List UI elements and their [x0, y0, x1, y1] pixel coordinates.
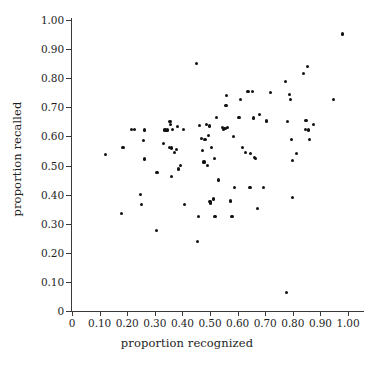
- data-point: [120, 212, 123, 215]
- x-tick-mark: [127, 311, 128, 316]
- y-tick-label: 0.90: [18, 44, 64, 55]
- data-point: [289, 98, 292, 101]
- data-point: [206, 164, 209, 167]
- x-tick-label: 1.00: [328, 318, 368, 329]
- data-point: [258, 113, 261, 116]
- data-point: [233, 186, 236, 189]
- data-point: [232, 135, 235, 138]
- data-point: [155, 171, 158, 174]
- data-point: [208, 124, 211, 127]
- data-point: [291, 196, 294, 199]
- data-point: [254, 157, 257, 160]
- data-point: [246, 90, 249, 93]
- y-tick-label: 0.40: [18, 190, 64, 201]
- data-point: [207, 134, 210, 137]
- x-tick-mark: [348, 311, 349, 316]
- data-point: [197, 215, 200, 218]
- data-point: [265, 119, 268, 122]
- data-point: [332, 98, 335, 101]
- data-point: [341, 32, 344, 35]
- data-point: [155, 229, 158, 232]
- x-tick-mark: [265, 311, 266, 316]
- data-point: [288, 93, 291, 96]
- data-point: [290, 138, 293, 141]
- data-point: [224, 104, 227, 107]
- x-axis-title: proportion recognized: [0, 336, 374, 350]
- data-point: [217, 178, 220, 181]
- data-point: [295, 152, 298, 155]
- data-point: [162, 142, 165, 145]
- data-point: [166, 128, 169, 131]
- data-point: [195, 62, 198, 65]
- data-point: [226, 126, 229, 129]
- data-point: [175, 148, 178, 151]
- y-tick-label: 1.00: [18, 15, 64, 26]
- x-tick-mark: [72, 311, 73, 316]
- data-point: [133, 128, 136, 131]
- data-point: [306, 65, 309, 68]
- data-point: [203, 138, 206, 141]
- data-point: [244, 151, 247, 154]
- data-point: [284, 80, 287, 83]
- scatter-plot-figure: 00.100.200.300.400.500.600.700.800.901.0…: [0, 0, 374, 365]
- data-point: [256, 207, 259, 210]
- data-point: [170, 146, 173, 149]
- data-point: [230, 215, 233, 218]
- data-point: [173, 151, 176, 154]
- y-tick-label: 0.30: [18, 219, 64, 230]
- y-axis-title: proportion recalled: [10, 79, 24, 239]
- data-point: [213, 215, 216, 218]
- x-tick-mark: [320, 311, 321, 316]
- data-point: [212, 198, 215, 201]
- y-tick-label: 0.20: [18, 248, 64, 259]
- data-point: [201, 149, 204, 152]
- data-point: [182, 128, 185, 131]
- data-point: [302, 72, 305, 75]
- data-point: [143, 157, 146, 160]
- data-point: [140, 203, 143, 206]
- data-point: [139, 193, 142, 196]
- data-point: [121, 146, 124, 149]
- x-tick-mark: [238, 311, 239, 316]
- data-point: [249, 152, 252, 155]
- y-tick-label: 0: [18, 306, 64, 317]
- x-tick-mark: [293, 311, 294, 316]
- data-point: [202, 160, 205, 163]
- data-point: [179, 164, 182, 167]
- data-point: [104, 153, 107, 156]
- data-point: [209, 201, 212, 204]
- data-point: [239, 98, 242, 101]
- data-point: [171, 128, 174, 131]
- data-point: [210, 146, 213, 149]
- data-point: [237, 116, 240, 119]
- data-point: [176, 125, 179, 128]
- data-point: [269, 91, 272, 94]
- y-tick-label: 0.60: [18, 131, 64, 142]
- data-point: [142, 139, 145, 142]
- data-point: [229, 199, 232, 202]
- data-point: [262, 186, 265, 189]
- data-point: [215, 116, 218, 119]
- data-point: [170, 175, 173, 178]
- y-tick-label: 0.70: [18, 102, 64, 113]
- data-point: [286, 120, 289, 123]
- data-point: [312, 123, 315, 126]
- data-point: [143, 128, 146, 131]
- data-point: [196, 240, 199, 243]
- x-tick-mark: [210, 311, 211, 316]
- x-tick-mark: [155, 311, 156, 316]
- data-point: [248, 186, 251, 189]
- data-point: [285, 291, 288, 294]
- y-tick-label: 0.10: [18, 277, 64, 288]
- data-point: [304, 119, 307, 122]
- x-tick-mark: [182, 311, 183, 316]
- data-point: [200, 137, 203, 140]
- data-point: [241, 146, 244, 149]
- y-tick-label: 0.80: [18, 73, 64, 84]
- data-point: [213, 157, 216, 160]
- x-tick-mark: [100, 311, 101, 316]
- data-point: [183, 203, 186, 206]
- data-point: [225, 94, 228, 97]
- data-point: [307, 128, 310, 131]
- data-point: [308, 138, 311, 141]
